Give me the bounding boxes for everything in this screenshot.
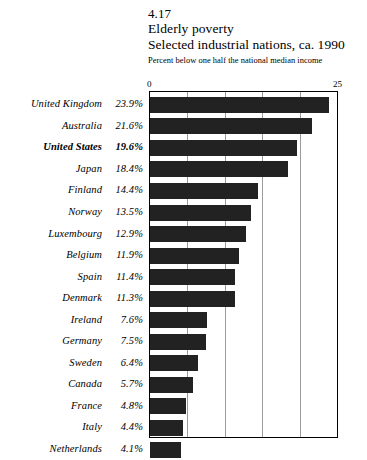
category-value: 21.6% [109,120,143,131]
category-value: 4.4% [109,421,143,432]
category-value: 23.9% [109,98,143,109]
category-value: 13.5% [109,206,143,217]
bar-row [150,396,337,418]
bar-row [150,223,337,245]
bar [150,420,183,436]
bar-row [150,331,337,353]
category-row: United States19.6% [0,136,143,158]
category-value: 18.4% [109,163,143,174]
category-value: 5.7% [109,378,143,389]
bar-row [150,417,337,439]
category-value: 12.9% [109,228,143,239]
category-row: United Kingdom23.9% [0,93,143,115]
bar-row [150,266,337,288]
bar [150,291,235,307]
category-row: Ireland7.6% [0,308,143,330]
x-axis-min-label: 0 [147,79,152,89]
category-value: 7.6% [109,314,143,325]
bar-row [150,374,337,396]
bar [150,97,329,113]
bar [150,140,297,156]
bar [150,161,288,177]
category-row: Norway13.5% [0,201,143,223]
category-label: France [71,400,102,411]
category-label: Italy [82,421,102,432]
bar [150,269,235,285]
category-value: 19.6% [109,141,143,152]
category-label: United States [43,141,102,152]
category-value: 11.9% [109,249,143,260]
category-row: Belgium11.9% [0,244,143,266]
category-row: Finland14.4% [0,179,143,201]
category-row: Germany7.5% [0,330,143,352]
category-value: 6.4% [109,357,143,368]
category-row: Japan18.4% [0,158,143,180]
category-value: 7.5% [109,335,143,346]
category-label: Denmark [62,292,102,303]
category-value: 11.4% [109,271,143,282]
bar-row [150,245,337,267]
category-label: Netherlands [50,443,102,454]
title-block: 4.17 Elderly poverty Selected industrial… [148,6,363,67]
bar-row [150,288,337,310]
bar-row [150,159,337,181]
bar-row [150,137,337,159]
bar [150,334,206,350]
bar-row [150,94,337,116]
category-label: Finland [68,184,102,195]
bar [150,226,246,242]
category-label: Sweden [69,357,102,368]
category-value: 14.4% [109,184,143,195]
bar-row [150,180,337,202]
figure-subtitle: Selected industrial nations, ca. 1990 [148,37,363,53]
category-row: Spain11.4% [0,265,143,287]
bar-series [150,92,337,437]
category-value: 4.8% [109,400,143,411]
x-axis-max-label: 25 [333,79,342,89]
category-label: Ireland [71,314,102,325]
bar [150,312,207,328]
bar-row [150,309,337,331]
category-row: Denmark11.3% [0,287,143,309]
bar [150,442,181,458]
category-row: Sweden6.4% [0,352,143,374]
bar [150,398,186,414]
bar [150,377,193,393]
category-label: Germany [62,335,102,346]
plot-area [149,91,338,438]
figure-number: 4.17 [148,6,363,21]
bar [150,205,251,221]
bar-row [150,202,337,224]
category-label: Luxembourg [48,228,102,239]
figure-title: Elderly poverty [148,21,363,37]
category-label: Belgium [66,249,102,260]
category-row: Italy4.4% [0,416,143,438]
category-label: Spain [78,271,102,282]
category-row: Luxembourg12.9% [0,222,143,244]
category-label: Canada [68,378,102,389]
bar-row [150,116,337,138]
category-row: Australia21.6% [0,115,143,137]
category-label: Norway [68,206,102,217]
category-label-column: United Kingdom23.9%Australia21.6%United … [0,91,143,459]
bar [150,183,258,199]
bar [150,248,239,264]
bar-row [150,353,337,375]
category-label: Japan [76,163,102,174]
category-label: Australia [62,120,102,131]
bar [150,118,312,134]
bar-row [150,439,337,460]
figure-caption: Percent below one half the national medi… [148,55,363,67]
category-value: 4.1% [109,443,143,454]
category-value: 11.3% [109,292,143,303]
category-row: France4.8% [0,395,143,417]
category-row: Netherlands4.1% [0,438,143,460]
bar [150,355,198,371]
category-row: Canada5.7% [0,373,143,395]
category-label: United Kingdom [31,98,102,109]
